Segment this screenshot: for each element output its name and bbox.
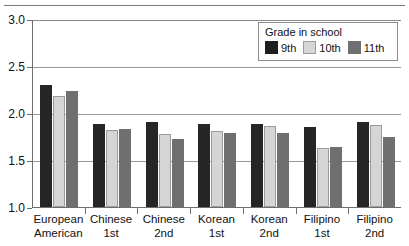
- bar-filipino-2nd-9th: [357, 122, 369, 207]
- bar-group: [138, 20, 191, 207]
- bar-european-american-11th: [66, 91, 78, 207]
- x-axis-label: Chinese2nd: [137, 212, 190, 240]
- series-1-swatch: [303, 41, 316, 54]
- bar-group: [191, 20, 244, 207]
- x-axis-label-line: Chinese: [137, 212, 190, 226]
- bar-group: [33, 20, 86, 207]
- bar-korean-2nd-10th: [264, 126, 276, 207]
- bar-chinese-2nd-10th: [159, 134, 171, 207]
- legend-item-10th: 10th: [303, 41, 340, 54]
- x-axis-label-line: Filipino: [296, 212, 349, 226]
- x-axis-label: Korean2nd: [243, 212, 296, 240]
- bar-korean-1st-10th: [211, 131, 223, 207]
- legend-item-11th: 11th: [348, 41, 385, 54]
- bar-filipino-1st-9th: [304, 127, 316, 207]
- x-axis-label-line: 2nd: [137, 226, 190, 240]
- bar-korean-2nd-11th: [277, 133, 289, 207]
- chart-legend: Grade in school 9th10th11th: [258, 22, 398, 61]
- top-divider-rule: [4, 5, 405, 6]
- y-axis: 3.02.52.01.51.0: [0, 20, 32, 208]
- bar-filipino-2nd-10th: [370, 125, 382, 207]
- bar-korean-2nd-9th: [251, 124, 263, 207]
- bar-european-american-9th: [40, 85, 52, 207]
- legend-items: 9th10th11th: [265, 41, 392, 54]
- y-tick-mark-1.0: [27, 208, 32, 209]
- legend-label: 11th: [364, 42, 385, 54]
- x-axis-label: Filipino2nd: [348, 212, 401, 240]
- x-axis-label-line: 1st: [296, 226, 349, 240]
- bar-european-american-10th: [53, 96, 65, 207]
- bar-chinese-2nd-11th: [172, 139, 184, 207]
- x-axis-label: Chinese1st: [85, 212, 138, 240]
- y-tick-label-1.0: 1.0: [8, 201, 25, 215]
- x-axis-label: Filipino1st: [296, 212, 349, 240]
- legend-title: Grade in school: [265, 26, 392, 38]
- bar-filipino-1st-11th: [330, 147, 342, 207]
- y-tick-label-2.0: 2.0: [8, 107, 25, 121]
- x-axis-label-line: 1st: [190, 226, 243, 240]
- y-tick-label-3.0: 3.0: [8, 13, 25, 27]
- y-tick-label-2.5: 2.5: [8, 60, 25, 74]
- series-0-swatch: [265, 41, 278, 54]
- x-axis-label-line: Korean: [243, 212, 296, 226]
- bar-chinese-1st-10th: [106, 130, 118, 207]
- bar-korean-1st-11th: [224, 133, 236, 207]
- x-axis-label-line: Filipino: [348, 212, 401, 226]
- bar-chart-figure: 3.02.52.01.51.0 EuropeanAmericanChinese1…: [0, 0, 409, 246]
- bar-chinese-1st-11th: [119, 129, 131, 207]
- x-axis-label-line: 2nd: [348, 226, 401, 240]
- x-axis-label: Korean1st: [190, 212, 243, 240]
- legend-item-9th: 9th: [265, 41, 296, 54]
- x-axis-label-line: American: [32, 226, 85, 240]
- y-tick-label-1.5: 1.5: [8, 154, 25, 168]
- legend-label: 9th: [281, 42, 296, 54]
- x-axis-label-line: Chinese: [85, 212, 138, 226]
- bar-korean-1st-9th: [198, 124, 210, 207]
- x-axis-label-line: 1st: [85, 226, 138, 240]
- x-axis-label-line: European: [32, 212, 85, 226]
- bar-filipino-2nd-11th: [383, 137, 395, 208]
- legend-label: 10th: [319, 42, 340, 54]
- bar-group: [86, 20, 139, 207]
- x-axis-label-line: 2nd: [243, 226, 296, 240]
- series-2-swatch: [348, 41, 361, 54]
- bar-filipino-1st-10th: [317, 148, 329, 207]
- bar-chinese-2nd-9th: [146, 122, 158, 207]
- x-axis-label-line: Korean: [190, 212, 243, 226]
- bar-chinese-1st-9th: [93, 124, 105, 207]
- x-axis-label: EuropeanAmerican: [32, 212, 85, 240]
